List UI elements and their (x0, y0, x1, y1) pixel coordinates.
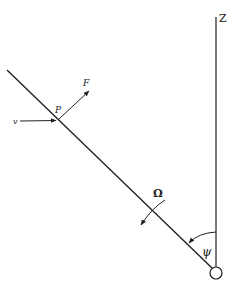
psi-label: ψ (202, 245, 212, 259)
pivot-circle (210, 267, 222, 279)
inclined-line (7, 70, 212, 268)
omega-label: Ω (153, 187, 163, 200)
z-axis-label: Z (219, 12, 227, 25)
force-arrow (59, 91, 89, 119)
point-p-label: P (54, 105, 62, 115)
force-label: F (82, 78, 90, 88)
psi-angle-arc (189, 232, 216, 243)
diagram-canvas: Z v P F Ω ψ (0, 0, 232, 286)
velocity-label: v (13, 117, 18, 126)
velocity-arrow (20, 121, 56, 122)
